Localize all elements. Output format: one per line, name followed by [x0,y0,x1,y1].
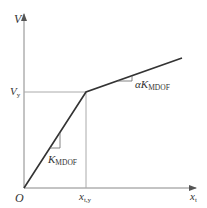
y-axis-label: V [14,12,23,26]
bilinear-curve [24,58,182,188]
yield-force-label: Vy [10,85,21,99]
bilinear-diagram: V xt O Vy xt,y KMDOF αKMDOF [0,0,207,208]
origin-label: O [15,191,24,205]
yield-disp-label: xt,y [78,190,92,204]
x-axis-label: xt [189,190,197,204]
post-yield-stiffness-label: αKMDOF [135,78,170,92]
initial-stiffness-label: KMDOF [47,153,77,167]
